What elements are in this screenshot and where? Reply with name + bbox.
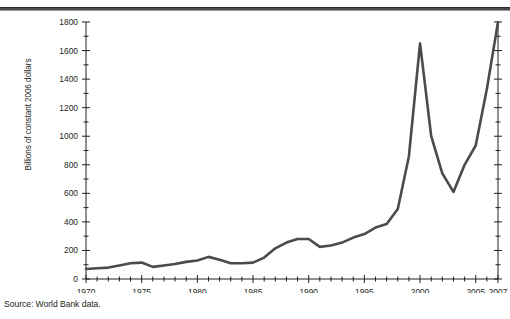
chart-figure: Billions of constant 2006 dollars 020040… <box>0 11 510 293</box>
svg-text:2005: 2005 <box>466 287 485 293</box>
y-axis: 020040060080010001200140016001800 <box>59 17 90 284</box>
svg-text:800: 800 <box>64 160 78 170</box>
svg-text:1000: 1000 <box>59 131 78 141</box>
svg-text:400: 400 <box>64 217 78 227</box>
svg-text:200: 200 <box>64 245 78 255</box>
svg-text:1975: 1975 <box>132 287 151 293</box>
svg-text:1970: 1970 <box>77 287 96 293</box>
svg-text:1400: 1400 <box>59 74 78 84</box>
svg-text:1990: 1990 <box>299 287 318 293</box>
svg-text:1800: 1800 <box>59 17 78 27</box>
data-series-line <box>86 22 498 269</box>
svg-text:1980: 1980 <box>188 287 207 293</box>
x-axis: 197019751980198519901995200020052007 <box>77 275 508 293</box>
svg-text:1985: 1985 <box>244 287 263 293</box>
svg-text:600: 600 <box>64 188 78 198</box>
svg-text:1600: 1600 <box>59 46 78 56</box>
right-axis-spine <box>494 22 502 279</box>
svg-text:2007: 2007 <box>489 287 508 293</box>
svg-text:1200: 1200 <box>59 103 78 113</box>
source-note: Source: World Bank data. <box>4 299 101 309</box>
line-chart-plot: 020040060080010001200140016001800 197019… <box>0 11 510 293</box>
svg-text:2000: 2000 <box>411 287 430 293</box>
svg-text:1995: 1995 <box>355 287 374 293</box>
svg-text:0: 0 <box>73 274 78 284</box>
